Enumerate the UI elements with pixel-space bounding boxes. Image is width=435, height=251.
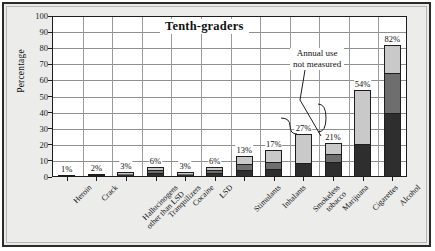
bar-segment (266, 170, 281, 176)
y-tick-label: 90 (40, 27, 49, 37)
category-separator (83, 17, 84, 176)
x-tick-mark (67, 177, 68, 181)
bar-segment (207, 174, 222, 176)
bar-segment (237, 171, 252, 176)
bar-value-label: 3% (178, 161, 191, 171)
x-tick-mark (156, 177, 157, 181)
bar-segment (326, 144, 341, 154)
bar-segment (118, 175, 133, 176)
category-separator (201, 17, 202, 176)
y-tick-label: 50 (40, 92, 49, 102)
bar-value-label: 6% (149, 156, 162, 166)
bar-segment (237, 157, 252, 164)
y-tick-label: 40 (40, 108, 49, 118)
x-tick-mark (303, 177, 304, 181)
bar-value-label: 6% (208, 156, 221, 166)
chart-title: Tenth-graders (160, 19, 249, 34)
bar-value-label: 82% (383, 34, 401, 44)
bar-segment (385, 46, 400, 73)
bar-segment (178, 175, 193, 176)
category-separator (171, 17, 172, 176)
bar-value-label: 1% (60, 164, 73, 174)
bar-value-label: 27% (295, 123, 313, 133)
bar[interactable] (295, 134, 312, 177)
annotation-line-2: not measured (293, 59, 341, 70)
annotation-annual-use-not-measured: Annual use not measured (290, 48, 344, 70)
x-tick-mark (126, 177, 127, 181)
y-tick-label: 60 (40, 75, 49, 85)
bar[interactable] (354, 90, 371, 177)
x-tick-mark (185, 177, 186, 181)
y-tick-label: 100 (35, 11, 48, 21)
gridline (53, 97, 406, 98)
bar-segment (355, 145, 370, 176)
gridline (53, 48, 406, 49)
bar-value-label: 2% (90, 163, 103, 173)
bar[interactable] (206, 167, 223, 177)
y-axis-label: Percentage (16, 26, 26, 116)
bar[interactable] (384, 45, 401, 177)
y-tick-label: 10 (40, 156, 49, 166)
bar-segment (266, 151, 281, 162)
y-tick-label: 80 (40, 43, 49, 53)
x-tick-mark (363, 177, 364, 181)
bar[interactable] (147, 167, 164, 177)
bar-segment (355, 91, 370, 144)
bar-value-label: 13% (235, 145, 253, 155)
bar-value-label: 54% (354, 79, 372, 89)
y-axis-label-wrap: Percentage (20, 60, 34, 150)
bar[interactable] (325, 143, 342, 177)
y-tick-label: 70 (40, 59, 49, 69)
category-separator (290, 17, 291, 176)
x-tick-mark (333, 177, 334, 181)
x-tick-mark (392, 177, 393, 181)
bar-value-label: 21% (324, 132, 342, 142)
category-separator (112, 17, 113, 176)
bar-value-label: 17% (265, 139, 283, 149)
bar-segment (296, 135, 311, 164)
bar-segment (385, 74, 400, 113)
bar[interactable] (236, 156, 253, 177)
bar-value-label: 3% (119, 161, 132, 171)
category-separator (260, 17, 261, 176)
category-separator (319, 17, 320, 176)
bar[interactable] (265, 150, 282, 177)
x-tick-mark (215, 177, 216, 181)
bar-segment (326, 163, 341, 176)
gridline (53, 64, 406, 65)
x-tick-mark (244, 177, 245, 181)
bar-segment (326, 155, 341, 162)
category-separator (231, 17, 232, 176)
gridline (53, 161, 406, 162)
bar-segment (385, 114, 400, 176)
category-separator (349, 17, 350, 176)
screenshot-root: Percentage 0102030405060708090100 1%2%3%… (0, 0, 435, 251)
gridline (53, 129, 406, 130)
annotation-line-1: Annual use (293, 48, 341, 59)
bar-segment (148, 174, 163, 176)
bar-segment (296, 164, 311, 176)
x-tick-mark (96, 177, 97, 181)
gridline (53, 113, 406, 114)
y-tick-label: 20 (40, 140, 49, 150)
category-separator (142, 17, 143, 176)
category-separator (378, 17, 379, 176)
y-tick-label: 30 (40, 124, 49, 134)
x-tick-mark (274, 177, 275, 181)
gridline (53, 145, 406, 146)
